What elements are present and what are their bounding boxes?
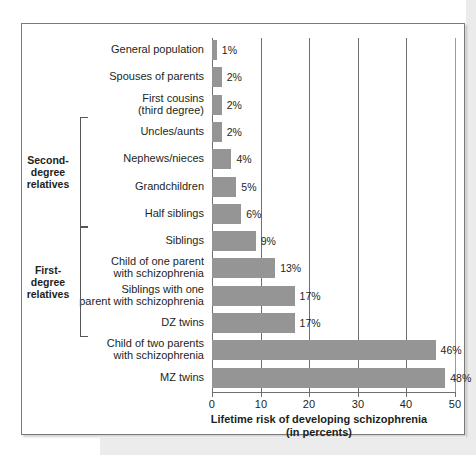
x-tick-label-40: 40 — [386, 398, 426, 410]
group-label-line: degree — [22, 276, 74, 288]
bar — [212, 40, 217, 60]
bar-category-label-line: DZ twins — [24, 316, 204, 328]
bar-chart-plot-area: General population1%Spouses of parents2%… — [22, 24, 466, 436]
group-bracket — [80, 117, 88, 228]
bar — [212, 258, 275, 278]
bar — [212, 204, 241, 224]
bar-row: Half siblings6% — [22, 202, 466, 226]
bar — [212, 313, 295, 333]
bar-value-label: 6% — [246, 208, 261, 220]
bar-row: First cousins(third degree)2% — [22, 93, 466, 117]
bar-value-label: 9% — [261, 235, 276, 247]
bar-row: Siblings9% — [22, 229, 466, 253]
bar-category-label-line: First cousins — [24, 92, 204, 104]
x-tick-50 — [455, 393, 456, 397]
bar-category-label-line: Uncles/aunts — [24, 125, 204, 137]
x-tick-10 — [261, 393, 262, 397]
x-tick-30 — [358, 393, 359, 397]
bar-category-label-line: Half siblings — [24, 207, 204, 219]
bar-category-label: Child of two parentswith schizophrenia — [24, 337, 204, 361]
bar-row: Spouses of parents2% — [22, 65, 466, 89]
bar — [212, 286, 295, 306]
group-label-line: Second- — [22, 154, 74, 166]
bar-category-label-line: Spouses of parents — [24, 70, 204, 82]
bar-category-label-line: MZ twins — [24, 371, 204, 383]
x-tick-label-30: 30 — [338, 398, 378, 410]
bar — [212, 231, 256, 251]
bar — [212, 177, 236, 197]
bar-row: Uncles/aunts2% — [22, 120, 466, 144]
bar — [212, 368, 445, 388]
bar-category-label-line: (third degree) — [24, 104, 204, 116]
x-tick-label-0: 0 — [192, 398, 232, 410]
x-axis-baseline — [212, 392, 456, 393]
x-tick-label-10: 10 — [241, 398, 281, 410]
bar-value-label: 48% — [450, 372, 471, 384]
bar-category-label-line: Child of two parents — [24, 337, 204, 349]
bar-category-label: Spouses of parents — [24, 70, 204, 82]
bar-category-label: Siblings — [24, 234, 204, 246]
bar-category-label: General population — [24, 43, 204, 55]
bar-value-label: 17% — [300, 317, 321, 329]
group-bracket — [80, 226, 88, 337]
bar — [212, 149, 231, 169]
bar-category-label: MZ twins — [24, 371, 204, 383]
bar-category-label: Uncles/aunts — [24, 125, 204, 137]
figure-frame: General population1%Spouses of parents2%… — [21, 23, 465, 435]
bar-category-label-line: with schizophrenia — [24, 349, 204, 361]
bar-value-label: 2% — [227, 99, 242, 111]
bar — [212, 340, 436, 360]
x-axis-title-line1: Lifetime risk of developing schizophreni… — [172, 413, 466, 426]
bar-row: Grandchildren5% — [22, 175, 466, 199]
bar-value-label: 17% — [300, 290, 321, 302]
group-label-line: First- — [22, 264, 74, 276]
x-axis-title-line2: (in percents) — [172, 426, 466, 439]
bar-category-label-line: General population — [24, 43, 204, 55]
bar-value-label: 2% — [227, 126, 242, 138]
bar-row: Nephews/nieces4% — [22, 147, 466, 171]
group-label: First-degreerelatives — [22, 264, 74, 300]
bar-row: General population1% — [22, 38, 466, 62]
bar-value-label: 13% — [280, 262, 301, 274]
page-margin-shade-bottom — [100, 438, 476, 455]
group-label: Second-degreerelatives — [22, 154, 74, 190]
bar — [212, 122, 222, 142]
bar — [212, 95, 222, 115]
bar-row: MZ twins48% — [22, 366, 466, 390]
bar-row: DZ twins17% — [22, 311, 466, 335]
x-axis-title: Lifetime risk of developing schizophreni… — [172, 413, 466, 439]
group-label-line: relatives — [22, 178, 74, 190]
bar-category-label-line: Siblings — [24, 234, 204, 246]
bar-value-label: 5% — [241, 181, 256, 193]
group-label-line: degree — [22, 166, 74, 178]
x-tick-label-50: 50 — [435, 398, 475, 410]
bar-value-label: 4% — [236, 153, 251, 165]
page-margin-shade-right — [466, 0, 476, 455]
bar-category-label: DZ twins — [24, 316, 204, 328]
x-tick-20 — [309, 393, 310, 397]
bar-value-label: 2% — [227, 71, 242, 83]
bar-row: Siblings with oneparent with schizophren… — [22, 284, 466, 308]
x-tick-0 — [212, 393, 213, 397]
bar-category-label: First cousins(third degree) — [24, 92, 204, 116]
bar-row: Child of two parentswith schizophrenia46… — [22, 338, 466, 362]
x-tick-label-20: 20 — [289, 398, 329, 410]
bar-value-label: 1% — [222, 44, 237, 56]
bar-category-label: Half siblings — [24, 207, 204, 219]
x-tick-40 — [406, 393, 407, 397]
bar — [212, 67, 222, 87]
bar-value-label: 46% — [441, 344, 462, 356]
bar-row: Child of one parentwith schizophrenia13% — [22, 256, 466, 280]
group-label-line: relatives — [22, 288, 74, 300]
